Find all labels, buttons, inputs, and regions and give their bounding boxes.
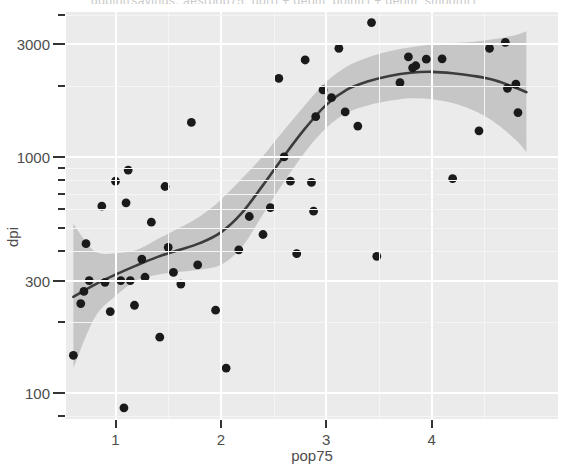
data-point (76, 299, 85, 308)
y-tick-mark (53, 156, 65, 158)
data-point (80, 287, 89, 296)
data-point (485, 44, 494, 53)
y-tick-mark (53, 43, 65, 45)
x-tick-mark (325, 420, 327, 428)
data-point (259, 230, 268, 239)
data-point (120, 403, 129, 412)
y-tick-mark-minor (58, 208, 65, 210)
data-point (274, 74, 283, 83)
y-tick-mark-minor (58, 179, 65, 181)
data-point (422, 55, 431, 64)
data-point (245, 212, 254, 221)
grid-line-horizontal-minor (66, 168, 558, 169)
plot-panel (66, 12, 558, 419)
data-point (286, 177, 295, 186)
y-tick-mark-minor (58, 415, 65, 417)
grid-line-vertical-minor (379, 12, 380, 419)
x-tick-mark (220, 420, 222, 428)
x-tick-label: 1 (111, 431, 119, 448)
x-tick-label: 4 (427, 431, 435, 448)
y-tick-mark-minor (58, 167, 65, 169)
data-point (404, 52, 413, 61)
y-tick-mark-minor (58, 250, 65, 252)
data-point (234, 245, 243, 254)
data-point (353, 122, 362, 131)
grid-line-vertical-minor (484, 12, 485, 419)
data-point (334, 44, 343, 53)
data-point (130, 301, 139, 310)
y-tick-mark-minor (58, 193, 65, 195)
data-point (514, 108, 523, 117)
data-point (438, 54, 447, 63)
grid-line-horizontal-minor (66, 194, 558, 195)
data-point (327, 93, 336, 102)
data-point (301, 56, 310, 65)
data-point (137, 255, 146, 264)
x-axis-title: pop75 (66, 447, 558, 464)
data-point (411, 61, 420, 70)
data-point (367, 18, 376, 27)
y-tick-mark-minor (58, 227, 65, 229)
data-point (169, 268, 178, 277)
x-tick-label: 3 (322, 431, 330, 448)
x-tick-label: 2 (217, 431, 225, 448)
grid-line-horizontal-minor (66, 228, 558, 229)
grid-line-horizontal-minor (66, 251, 558, 252)
data-point (193, 260, 202, 269)
data-point (147, 218, 156, 227)
plot-title: ggplot(savings, aes(pop75, dpi)) + geom_… (0, 0, 567, 4)
data-point (475, 126, 484, 135)
data-point (448, 174, 457, 183)
y-tick-label: 100 (25, 385, 50, 402)
data-point (187, 118, 196, 127)
grid-line-horizontal-minor (66, 322, 558, 323)
data-point (106, 307, 115, 316)
grid-line-vertical (431, 12, 433, 419)
x-tick-mark (431, 420, 433, 428)
data-point (222, 364, 231, 373)
grid-line-vertical-minor (168, 12, 169, 419)
data-point (211, 306, 220, 315)
data-point (82, 239, 91, 248)
data-point (122, 198, 131, 207)
grid-line-vertical (325, 12, 327, 419)
grid-line-vertical (220, 12, 222, 419)
data-point (511, 80, 520, 89)
grid-line-horizontal (66, 280, 558, 282)
y-tick-mark-minor (58, 14, 65, 16)
grid-line-horizontal-minor (66, 86, 558, 87)
grid-line-horizontal-minor (66, 15, 558, 16)
y-axis-title: dpi (4, 226, 21, 246)
y-tick-mark-minor (58, 321, 65, 323)
x-axis: 1234 (0, 419, 567, 449)
grid-line-horizontal (66, 392, 558, 394)
y-tick-mark (53, 280, 65, 282)
data-point (341, 108, 350, 117)
grid-line-vertical-minor (274, 12, 275, 419)
y-tick-label: 1000 (17, 148, 50, 165)
grid-line-vertical (115, 12, 117, 419)
y-tick-mark-minor (58, 85, 65, 87)
data-point (155, 333, 164, 342)
data-point (309, 207, 318, 216)
scatter-plot-chart: ggplot(savings, aes(pop75, dpi)) + geom_… (0, 0, 567, 473)
data-point (311, 112, 320, 121)
y-tick-label: 300 (25, 272, 50, 289)
grid-line-horizontal (66, 43, 558, 45)
y-tick-mark (53, 392, 65, 394)
data-point (69, 351, 78, 360)
grid-line-horizontal-minor (66, 209, 558, 210)
grid-line-horizontal (66, 156, 558, 158)
grid-line-horizontal-minor (66, 180, 558, 181)
confidence-ribbon (73, 31, 526, 368)
x-tick-mark (115, 420, 117, 428)
grid-line-horizontal-minor (66, 416, 558, 417)
y-tick-label: 3000 (17, 36, 50, 53)
